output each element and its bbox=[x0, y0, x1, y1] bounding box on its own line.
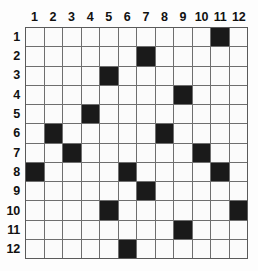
grid-cell-r9-c10[interactable] bbox=[193, 182, 211, 200]
grid-cell-r2-c12[interactable] bbox=[230, 47, 248, 65]
grid-cell-r3-c5[interactable] bbox=[100, 67, 118, 85]
grid-cell-r4-c3[interactable] bbox=[63, 86, 81, 104]
grid-cell-r10-c1[interactable] bbox=[26, 201, 44, 219]
grid-cell-r12-c10[interactable] bbox=[193, 240, 211, 258]
grid-cell-r10-c2[interactable] bbox=[45, 201, 63, 219]
grid-cell-r8-c11[interactable] bbox=[211, 163, 229, 181]
grid-cell-r4-c9[interactable] bbox=[174, 86, 192, 104]
grid-cell-r2-c11[interactable] bbox=[211, 47, 229, 65]
grid-cell-r1-c7[interactable] bbox=[137, 28, 155, 46]
grid-cell-r2-c9[interactable] bbox=[174, 47, 192, 65]
grid-cell-r12-c11[interactable] bbox=[211, 240, 229, 258]
grid-cell-r1-c3[interactable] bbox=[63, 28, 81, 46]
grid-cell-r5-c2[interactable] bbox=[45, 105, 63, 123]
grid-cell-r7-c9[interactable] bbox=[174, 144, 192, 162]
grid-cell-r11-c6[interactable] bbox=[119, 221, 137, 239]
grid-cell-r4-c10[interactable] bbox=[193, 86, 211, 104]
grid-cell-r2-c10[interactable] bbox=[193, 47, 211, 65]
grid-cell-r1-c11[interactable] bbox=[211, 28, 229, 46]
grid-cell-r1-c6[interactable] bbox=[119, 28, 137, 46]
grid-cell-r7-c6[interactable] bbox=[119, 144, 137, 162]
grid-cell-r6-c2[interactable] bbox=[45, 124, 63, 142]
grid-cell-r9-c6[interactable] bbox=[119, 182, 137, 200]
grid-cell-r3-c2[interactable] bbox=[45, 67, 63, 85]
grid-cell-r2-c8[interactable] bbox=[156, 47, 174, 65]
grid-cell-r7-c12[interactable] bbox=[230, 144, 248, 162]
grid-cell-r6-c4[interactable] bbox=[82, 124, 100, 142]
grid-cell-r11-c5[interactable] bbox=[100, 221, 118, 239]
grid-cell-r5-c9[interactable] bbox=[174, 105, 192, 123]
grid-cell-r6-c3[interactable] bbox=[63, 124, 81, 142]
grid-cell-r12-c8[interactable] bbox=[156, 240, 174, 258]
grid-cell-r3-c11[interactable] bbox=[211, 67, 229, 85]
grid-cell-r12-c3[interactable] bbox=[63, 240, 81, 258]
grid-cell-r9-c7[interactable] bbox=[137, 182, 155, 200]
grid-cell-r5-c1[interactable] bbox=[26, 105, 44, 123]
grid-cell-r6-c6[interactable] bbox=[119, 124, 137, 142]
grid-cell-r6-c8[interactable] bbox=[156, 124, 174, 142]
grid-cell-r1-c8[interactable] bbox=[156, 28, 174, 46]
grid-cell-r2-c2[interactable] bbox=[45, 47, 63, 65]
grid-cell-r6-c12[interactable] bbox=[230, 124, 248, 142]
grid-cell-r8-c1[interactable] bbox=[26, 163, 44, 181]
grid-cell-r5-c10[interactable] bbox=[193, 105, 211, 123]
grid-cell-r11-c12[interactable] bbox=[230, 221, 248, 239]
grid-cell-r9-c3[interactable] bbox=[63, 182, 81, 200]
grid-cell-r5-c8[interactable] bbox=[156, 105, 174, 123]
grid-cell-r11-c9[interactable] bbox=[174, 221, 192, 239]
grid-cell-r3-c6[interactable] bbox=[119, 67, 137, 85]
grid-cell-r3-c9[interactable] bbox=[174, 67, 192, 85]
grid-cell-r9-c11[interactable] bbox=[211, 182, 229, 200]
grid-cell-r3-c1[interactable] bbox=[26, 67, 44, 85]
grid-cell-r12-c7[interactable] bbox=[137, 240, 155, 258]
grid-cell-r7-c5[interactable] bbox=[100, 144, 118, 162]
grid-cell-r1-c10[interactable] bbox=[193, 28, 211, 46]
grid-cell-r2-c5[interactable] bbox=[100, 47, 118, 65]
grid-cell-r4-c12[interactable] bbox=[230, 86, 248, 104]
grid-cell-r7-c8[interactable] bbox=[156, 144, 174, 162]
grid-cell-r11-c1[interactable] bbox=[26, 221, 44, 239]
grid-cell-r4-c5[interactable] bbox=[100, 86, 118, 104]
grid-cell-r11-c4[interactable] bbox=[82, 221, 100, 239]
grid-cell-r10-c6[interactable] bbox=[119, 201, 137, 219]
grid-cell-r9-c1[interactable] bbox=[26, 182, 44, 200]
grid-cell-r6-c9[interactable] bbox=[174, 124, 192, 142]
grid-cell-r10-c4[interactable] bbox=[82, 201, 100, 219]
grid-cell-r10-c9[interactable] bbox=[174, 201, 192, 219]
grid-cell-r8-c5[interactable] bbox=[100, 163, 118, 181]
grid-cell-r6-c11[interactable] bbox=[211, 124, 229, 142]
grid-cell-r1-c1[interactable] bbox=[26, 28, 44, 46]
grid-cell-r1-c9[interactable] bbox=[174, 28, 192, 46]
grid-cell-r10-c11[interactable] bbox=[211, 201, 229, 219]
grid-cell-r8-c6[interactable] bbox=[119, 163, 137, 181]
grid-cell-r6-c10[interactable] bbox=[193, 124, 211, 142]
grid-cell-r10-c10[interactable] bbox=[193, 201, 211, 219]
grid-cell-r7-c10[interactable] bbox=[193, 144, 211, 162]
grid-cell-r6-c7[interactable] bbox=[137, 124, 155, 142]
grid-cell-r8-c8[interactable] bbox=[156, 163, 174, 181]
grid-cell-r11-c8[interactable] bbox=[156, 221, 174, 239]
grid-cell-r8-c2[interactable] bbox=[45, 163, 63, 181]
grid-cell-r2-c3[interactable] bbox=[63, 47, 81, 65]
grid-cell-r8-c7[interactable] bbox=[137, 163, 155, 181]
grid-cell-r7-c11[interactable] bbox=[211, 144, 229, 162]
grid-cell-r7-c1[interactable] bbox=[26, 144, 44, 162]
grid-cell-r7-c2[interactable] bbox=[45, 144, 63, 162]
grid-cell-r9-c5[interactable] bbox=[100, 182, 118, 200]
grid-cell-r9-c9[interactable] bbox=[174, 182, 192, 200]
grid-cell-r9-c12[interactable] bbox=[230, 182, 248, 200]
grid-cell-r11-c3[interactable] bbox=[63, 221, 81, 239]
grid-cell-r9-c8[interactable] bbox=[156, 182, 174, 200]
grid-cell-r8-c3[interactable] bbox=[63, 163, 81, 181]
grid-cell-r7-c4[interactable] bbox=[82, 144, 100, 162]
grid-cell-r11-c10[interactable] bbox=[193, 221, 211, 239]
grid-cell-r10-c12[interactable] bbox=[230, 201, 248, 219]
grid-cell-r3-c3[interactable] bbox=[63, 67, 81, 85]
grid-cell-r12-c9[interactable] bbox=[174, 240, 192, 258]
grid-cell-r9-c4[interactable] bbox=[82, 182, 100, 200]
grid-cell-r8-c10[interactable] bbox=[193, 163, 211, 181]
grid-cell-r3-c10[interactable] bbox=[193, 67, 211, 85]
grid-cell-r4-c4[interactable] bbox=[82, 86, 100, 104]
grid-cell-r4-c8[interactable] bbox=[156, 86, 174, 104]
grid-cell-r3-c4[interactable] bbox=[82, 67, 100, 85]
